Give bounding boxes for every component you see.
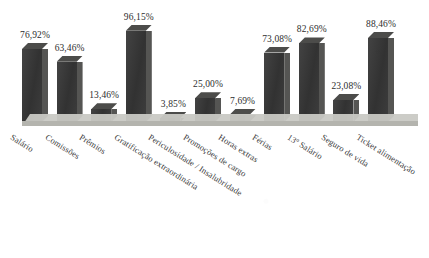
bar-value-label: 76,92% [20,30,50,40]
plot-area: 76,92%63,46%13,46%96,15%3,85%25,00%7,69%… [0,0,429,126]
bar-group: 73,08% [264,0,298,126]
category-label: Prêmios [78,132,108,156]
category-label: Ticket alimentação [355,132,418,177]
bar-side-face [146,31,152,122]
category-label: Salário [9,132,36,154]
bar-group: 7,69% [230,0,264,126]
bar-value-label: 63,46% [55,43,85,53]
bar-front-face [126,31,146,122]
bar-group: 3,85% [160,0,194,126]
bar-group: 23,08% [333,0,367,126]
bar-group: 25,00% [195,0,229,126]
category-label: Férias [251,132,275,152]
bar[interactable] [126,31,146,122]
chart-floor-front [14,121,418,126]
bar-group: 63,46% [57,0,91,126]
bar-group: 96,15% [126,0,160,126]
bar-value-label: 13,46% [89,90,119,100]
category-label: 13º Salário [285,132,324,161]
bar-side-face [319,43,325,122]
bar-group: 82,69% [299,0,333,126]
bar-group: 76,92% [22,0,56,126]
bar-value-label: 82,69% [297,24,327,34]
bar-side-face [388,38,394,122]
bar-value-label: 73,08% [262,34,292,44]
category-label: Comissões [43,132,81,161]
bar-value-label: 7,69% [230,96,255,106]
bar-value-label: 3,85% [161,99,186,109]
bar-value-label: 88,46% [366,19,396,29]
bar-chart: 76,92%63,46%13,46%96,15%3,85%25,00%7,69%… [0,0,429,258]
bar-front-face [368,38,388,122]
bar-value-label: 23,08% [331,81,361,91]
bar-value-label: 25,00% [193,79,223,89]
bar-value-label: 96,15% [124,12,154,22]
chart-floor [14,112,418,126]
bar-group: 13,46% [91,0,125,126]
bar-group: 88,46% [368,0,402,126]
bar[interactable] [299,43,319,122]
bar[interactable] [368,38,388,122]
bar-front-face [299,43,319,122]
